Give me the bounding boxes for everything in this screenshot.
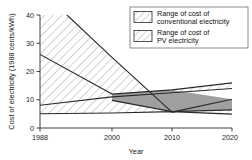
x-axis-title: Year bbox=[129, 147, 144, 156]
x-tick-2020: 2020 bbox=[222, 133, 238, 142]
x-tick-2000: 2000 bbox=[104, 133, 120, 142]
x-tick-1988: 1988 bbox=[32, 133, 48, 142]
y-tick-10: 10 bbox=[26, 95, 34, 104]
chart-figure: 0 10 20 30 40 1988 2000 2010 2020 Year C… bbox=[0, 0, 252, 160]
x-tick-2010: 2010 bbox=[164, 133, 180, 142]
y-tick-20: 20 bbox=[26, 67, 34, 76]
legend-swatch-conventional bbox=[134, 12, 152, 23]
y-tick-40: 40 bbox=[26, 11, 34, 20]
legend-label-pv-line2: PV electricity bbox=[157, 36, 199, 45]
legend-swatch-pv bbox=[134, 31, 152, 42]
y-tick-30: 30 bbox=[26, 39, 34, 48]
chart-legend: Range of cost of conventional electricit… bbox=[130, 7, 248, 48]
y-axis-title: Cost of electricity (1988 cents/kWh) bbox=[7, 13, 16, 129]
y-tick-0: 0 bbox=[30, 124, 34, 133]
chart-svg: 0 10 20 30 40 1988 2000 2010 2020 Year C… bbox=[0, 0, 252, 160]
legend-label-conventional-line2: conventional electricity bbox=[157, 17, 230, 26]
